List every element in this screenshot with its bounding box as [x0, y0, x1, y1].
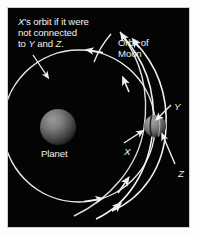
diagram-panel: X's orbit if it werenot connectedto Y an… [8, 8, 189, 227]
caption-line2: not connected [18, 27, 77, 38]
unperturbed-orbit-circle [8, 50, 155, 202]
caption-x-orbit: X's orbit if it werenot connectedto Y an… [18, 16, 89, 49]
moon-orbit-near-strand [74, 32, 146, 216]
figure-root: X's orbit if it werenot connectedto Y an… [0, 0, 199, 237]
planet-sphere [40, 109, 76, 145]
point-y-leader-line [158, 105, 171, 118]
orbit-of-moon-line2: Moon [118, 48, 142, 59]
label-point-y: Y [174, 101, 181, 112]
label-point-z: Z [178, 168, 184, 179]
moon-orbit-arrow-upper [124, 80, 129, 92]
label-point-x: X [124, 146, 131, 157]
caption-line1-rest: 's orbit if it were [24, 16, 88, 27]
orbit-of-moon-line1: Orbit of [118, 37, 149, 48]
caption-line3-mid: and [35, 38, 56, 49]
orbit-of-moon-leader-line [94, 34, 111, 62]
caption-line3-pre: to [18, 38, 28, 49]
label-orbit-of-moon: Orbit ofMoon [118, 37, 149, 59]
point-z-leader-line [163, 136, 175, 164]
moon-sphere [144, 115, 166, 137]
label-planet: Planet [41, 148, 68, 159]
point-x-leader-line [124, 132, 141, 143]
caption-line3-post: . [61, 38, 64, 49]
